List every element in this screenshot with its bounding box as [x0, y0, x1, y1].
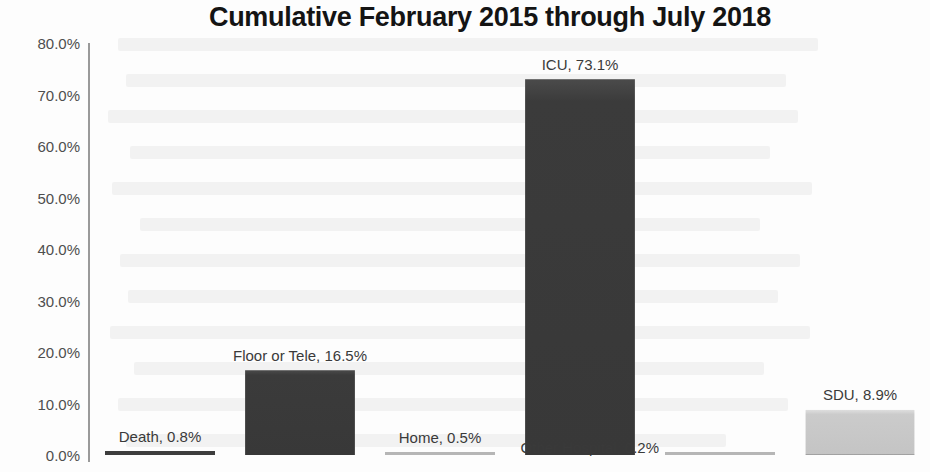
y-axis-tick-labels: 0.0%10.0%20.0%30.0%40.0%50.0%60.0%70.0%8…: [0, 0, 80, 472]
bar-data-label: Other Hospital, 0.2%: [521, 439, 659, 456]
bar[interactable]: [525, 79, 635, 455]
y-axis-tick-label: 40.0%: [8, 241, 80, 258]
bar-group: Home, 0.5%: [385, 43, 495, 455]
bar-group: SDU, 8.9%: [805, 43, 915, 455]
bar[interactable]: [105, 451, 215, 455]
bar-group: Floor or Tele, 16.5%: [245, 43, 355, 455]
y-axis-tick-label: 80.0%: [8, 35, 80, 52]
bar-group: Death, 0.8%: [105, 43, 215, 455]
bar-data-label: SDU, 8.9%: [823, 386, 897, 403]
bar-data-label: Home, 0.5%: [399, 429, 482, 446]
bar[interactable]: [385, 452, 495, 455]
y-axis-tick-label: 20.0%: [8, 344, 80, 361]
y-axis-tick-label: 0.0%: [8, 447, 80, 464]
bar[interactable]: [805, 409, 915, 455]
bar-data-label: Floor or Tele, 16.5%: [233, 347, 367, 364]
bar-data-label: Death, 0.8%: [119, 428, 202, 445]
y-axis-tick-label: 30.0%: [8, 292, 80, 309]
y-axis-tick-label: 50.0%: [8, 189, 80, 206]
bar-group: Other Hospital, 0.2%: [665, 43, 775, 455]
bar[interactable]: [245, 370, 355, 455]
bar-chart: Cumulative February 2015 through July 20…: [0, 0, 930, 472]
bar-group: ICU, 73.1%: [525, 43, 635, 455]
plot-area: Death, 0.8%Floor or Tele, 16.5%Home, 0.5…: [90, 43, 930, 455]
bar-data-label: ICU, 73.1%: [542, 56, 619, 73]
chart-title: Cumulative February 2015 through July 20…: [90, 2, 890, 33]
y-axis-tick-label: 10.0%: [8, 395, 80, 412]
y-axis-tick-label: 70.0%: [8, 86, 80, 103]
bar[interactable]: [665, 452, 775, 455]
y-axis-tick-label: 60.0%: [8, 138, 80, 155]
